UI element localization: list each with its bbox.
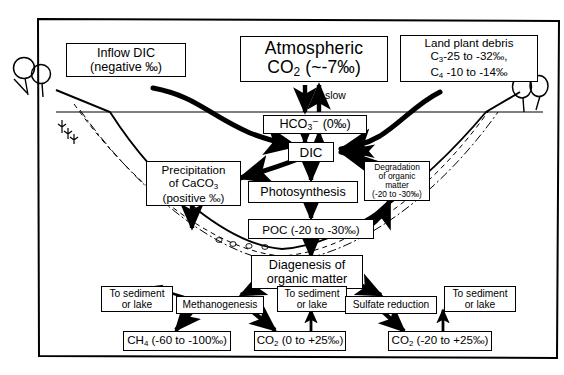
sulfate-reduction-label: Sulfate reduction	[353, 299, 429, 310]
node-inflow-dic[interactable]: Inflow DIC (negative ‰)	[66, 43, 186, 77]
poc-label: POC (-20 to -30‰)	[262, 223, 359, 236]
photosynthesis-label: Photosynthesis	[260, 185, 345, 199]
methanogenesis-label: Methanogenesis	[183, 299, 258, 310]
node-sulfate-reduction[interactable]: Sulfate reduction	[345, 296, 437, 314]
precipitation-line1: Precipitation	[162, 163, 226, 176]
diagenesis-line2: organic matter	[267, 272, 348, 286]
node-poc[interactable]: POC (-20 to -30‰)	[248, 219, 374, 239]
methane-label: CH4 (-60 to -100‰)	[127, 333, 227, 349]
atmospheric-co2-line2: CO2 (~-7‰)	[267, 58, 361, 79]
node-co2-sulfate[interactable]: CO2 (-20 to +25‰)	[388, 331, 492, 351]
inflow-dic-line1: Inflow DIC	[97, 46, 155, 60]
node-to-sediment-mid[interactable]: To sediment or lake	[277, 286, 347, 312]
node-precipitation-caco3[interactable]: Precipitation of CaCO3 (positive ‰)	[146, 161, 241, 206]
to-sediment-right-line1: To sediment	[453, 288, 508, 299]
node-methanogenesis[interactable]: Methanogenesis	[176, 296, 264, 314]
tree-left-group	[14, 58, 51, 98]
inflow-dic-line2: (negative ‰)	[90, 60, 162, 74]
land-plant-debris-line2: C3-25 to -32‰,	[430, 49, 507, 65]
diagram-canvas: Inflow DIC (negative ‰) Atmospheric CO2 …	[0, 0, 564, 375]
node-methane[interactable]: CH4 (-60 to -100‰)	[123, 331, 231, 351]
node-bicarbonate[interactable]: HCO3⁻ (0‰)	[263, 115, 367, 134]
bicarbonate-label: HCO3⁻ (0‰)	[279, 117, 350, 132]
to-sediment-mid-line2: or lake	[297, 299, 328, 310]
co2-methanogenesis-label: CO2 (0 to +25‰)	[257, 333, 344, 349]
node-photosynthesis[interactable]: Photosynthesis	[248, 181, 358, 203]
diagenesis-line1: Diagenesis of	[269, 258, 345, 272]
sediment-particles	[216, 238, 268, 250]
dic-label: DIC	[299, 145, 322, 160]
to-sediment-right-line2: or lake	[465, 299, 496, 310]
label-slow: slow	[325, 90, 346, 101]
aquatic-plants-left	[58, 120, 78, 144]
node-dic[interactable]: DIC	[288, 142, 334, 162]
to-sediment-left-line2: or lake	[122, 299, 153, 310]
node-land-plant-debris[interactable]: Land plant debris C3-25 to -32‰, C4 -10 …	[400, 35, 538, 82]
node-degradation[interactable]: Degradation of organic matter (-20 to -3…	[364, 161, 430, 201]
land-plant-debris-line1: Land plant debris	[425, 36, 514, 49]
node-to-sediment-left[interactable]: To sediment or lake	[101, 286, 173, 312]
node-to-sediment-right[interactable]: To sediment or lake	[444, 286, 516, 312]
node-atmospheric-co2[interactable]: Atmospheric CO2 (~-7‰)	[240, 36, 388, 82]
co2-sulfate-label: CO2 (-20 to +25‰)	[392, 333, 489, 349]
atmospheric-co2-line1: Atmospheric	[265, 39, 363, 59]
precipitation-line3: (positive ‰)	[163, 191, 225, 204]
precipitation-line2: of CaCO3	[169, 176, 219, 192]
node-co2-methanogenesis[interactable]: CO2 (0 to +25‰)	[254, 331, 346, 351]
land-plant-debris-line3: C4 -10 to -14‰	[430, 65, 507, 81]
to-sediment-mid-line1: To sediment	[285, 288, 340, 299]
to-sediment-left-line1: To sediment	[110, 288, 165, 299]
degradation-line4: (-20 to -30‰)	[372, 190, 422, 199]
node-diagenesis[interactable]: Diagenesis of organic matter	[251, 255, 363, 289]
